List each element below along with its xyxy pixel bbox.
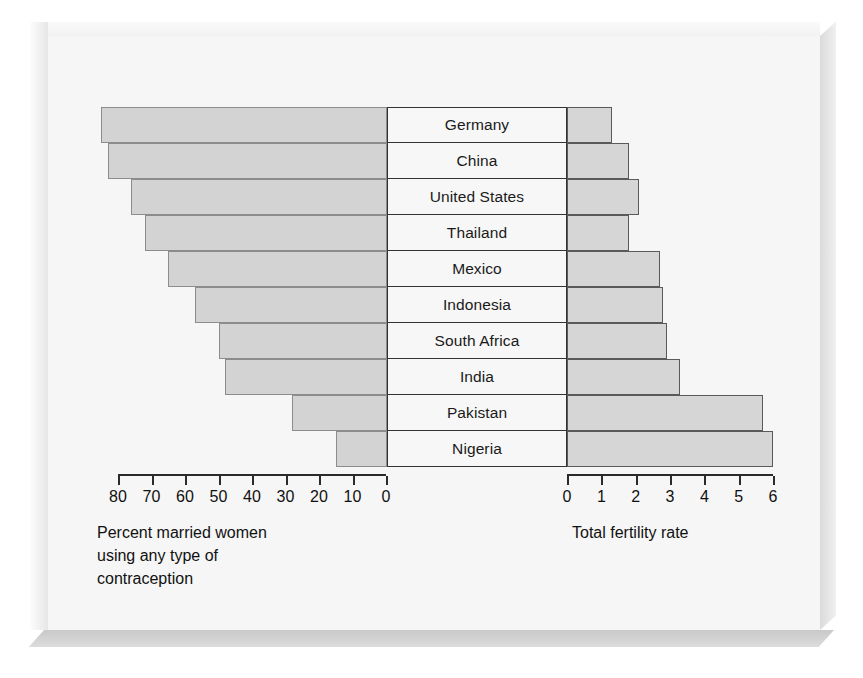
category-label-mexico: Mexico (387, 251, 567, 287)
left-bar (225, 359, 387, 395)
right-axis-tick-label: 0 (552, 488, 582, 506)
left-bar (168, 251, 387, 287)
left-axis-tick (286, 476, 288, 485)
right-axis-tick (567, 476, 569, 485)
category-label-nigeria: Nigeria (387, 431, 567, 467)
left-bar (219, 323, 388, 359)
left-bar (145, 215, 387, 251)
right-axis-caption: Total fertility rate (572, 521, 688, 544)
left-axis-caption-line: contraception (97, 567, 267, 590)
left-axis-tick-label: 50 (204, 488, 234, 506)
left-bar (195, 287, 387, 323)
left-axis-tick (219, 476, 221, 485)
right-axis-tick-label: 4 (689, 488, 719, 506)
right-axis-tick-label: 5 (724, 488, 754, 506)
category-label-india: India (387, 359, 567, 395)
left-axis-tick (386, 476, 388, 485)
left-axis-tick (185, 476, 187, 485)
category-label-indonesia: Indonesia (387, 287, 567, 323)
right-axis-tick (704, 476, 706, 485)
right-axis-tick (739, 476, 741, 485)
right-bar (567, 143, 629, 179)
left-axis-tick-label: 70 (137, 488, 167, 506)
left-axis-tick-label: 10 (338, 488, 368, 506)
right-axis-tick (670, 476, 672, 485)
category-label-china: China (387, 143, 567, 179)
left-bar (131, 179, 387, 215)
right-bar (567, 431, 773, 467)
right-bar (567, 395, 763, 431)
right-axis-tick-label: 3 (655, 488, 685, 506)
left-axis-caption: Percent married womenusing any type ofco… (97, 521, 267, 590)
left-bar (336, 431, 387, 467)
left-bar (101, 107, 387, 143)
left-axis-tick (118, 476, 120, 485)
right-axis-tick-label: 2 (621, 488, 651, 506)
left-axis-tick-label: 20 (304, 488, 334, 506)
right-axis-tick-label: 6 (758, 488, 788, 506)
left-axis-tick-label: 30 (271, 488, 301, 506)
left-axis-tick (252, 476, 254, 485)
category-label-pakistan: Pakistan (387, 395, 567, 431)
right-bar (567, 323, 667, 359)
right-axis-tick-label: 1 (586, 488, 616, 506)
left-axis-tick-label: 80 (103, 488, 133, 506)
right-bar (567, 359, 680, 395)
right-axis-tick (773, 476, 775, 485)
category-label-thailand: Thailand (387, 215, 567, 251)
right-axis-tick (601, 476, 603, 485)
category-label-united-states: United States (387, 179, 567, 215)
back-to-back-bar-chart: GermanyChinaUnited StatesThailandMexicoI… (0, 0, 863, 678)
category-label-germany: Germany (387, 107, 567, 143)
right-bar (567, 179, 639, 215)
right-bar (567, 287, 663, 323)
left-bar (292, 395, 387, 431)
right-bar (567, 107, 612, 143)
left-axis-tick-label: 60 (170, 488, 200, 506)
left-axis-tick (353, 476, 355, 485)
left-axis-caption-line: using any type of (97, 544, 267, 567)
left-axis-caption-line: Percent married women (97, 521, 267, 544)
left-axis-tick-label: 0 (371, 488, 401, 506)
right-bar (567, 251, 660, 287)
left-axis-tick-label: 40 (237, 488, 267, 506)
right-bar (567, 215, 629, 251)
left-bar (108, 143, 387, 179)
category-label-south-africa: South Africa (387, 323, 567, 359)
left-axis-tick (152, 476, 154, 485)
right-axis-tick (636, 476, 638, 485)
left-axis-tick (319, 476, 321, 485)
